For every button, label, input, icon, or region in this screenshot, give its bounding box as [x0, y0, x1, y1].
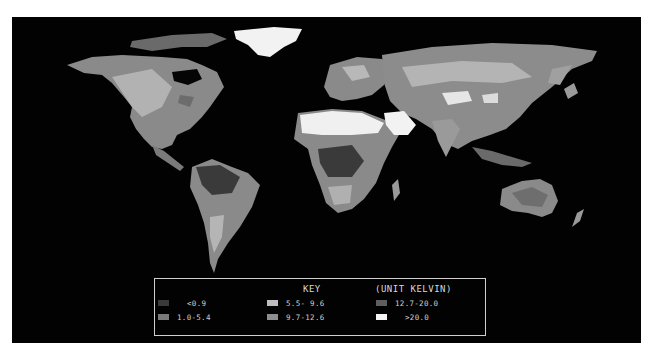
legend-swatch [267, 314, 278, 320]
legend-title: KEY [303, 284, 321, 294]
central-america [152, 145, 184, 171]
legend-label: 12.7-20.0 [395, 299, 438, 308]
madagascar [392, 179, 400, 201]
legend-swatch [376, 300, 387, 306]
legend-item: 1.0-5.4 [158, 312, 211, 322]
legend-label: 9.7-12.6 [286, 313, 325, 322]
legend-item: >20.0 [376, 312, 429, 322]
legend-swatch [376, 314, 387, 320]
legend-swatch [267, 300, 278, 306]
legend-item: 12.7-20.0 [376, 298, 438, 308]
japan [564, 83, 578, 99]
legend-label: <0.9 [187, 299, 206, 308]
arctic-islands [130, 33, 227, 51]
legend-unit: (UNIT KELVIN) [375, 284, 452, 294]
legend-swatch [158, 300, 169, 306]
legend-item: 5.5- 9.6 [267, 298, 325, 308]
legend-swatch [158, 314, 169, 320]
legend-label: >20.0 [405, 313, 429, 322]
legend-label: 1.0-5.4 [177, 313, 211, 322]
legend-label: 5.5- 9.6 [286, 299, 325, 308]
map-panel: KEY (UNIT KELVIN) <0.9 1.0-5.4 5.5- 9.6 … [12, 17, 641, 343]
greenland [234, 27, 302, 57]
se-asia-islands [472, 147, 532, 167]
new-zealand [572, 209, 584, 227]
map-legend: KEY (UNIT KELVIN) <0.9 1.0-5.4 5.5- 9.6 … [154, 278, 486, 336]
sahara [300, 111, 384, 135]
legend-item: 9.7-12.6 [267, 312, 325, 322]
legend-item: <0.9 [158, 298, 206, 308]
